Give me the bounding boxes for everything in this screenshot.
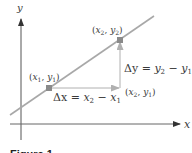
figure-caption: Figure 1 [10, 148, 53, 153]
delta-x-label: Δx = x2 − x1 [53, 91, 121, 105]
point-1-marker [46, 85, 52, 91]
slope-diagram: y x (x1, y1) (x2, y2) (x2, y1) Δx = x2 −… [0, 0, 192, 153]
point-2-marker [117, 37, 123, 43]
x-axis-label: x [184, 118, 191, 131]
delta-y-label: Δy = y2 − y1 [124, 62, 192, 76]
point-2-label: (x2, y2) [92, 25, 123, 36]
point-1-label: (x1, y1) [29, 72, 60, 83]
y-axis-label: y [16, 2, 23, 13]
corner-point-label: (x2, y1) [125, 87, 156, 98]
